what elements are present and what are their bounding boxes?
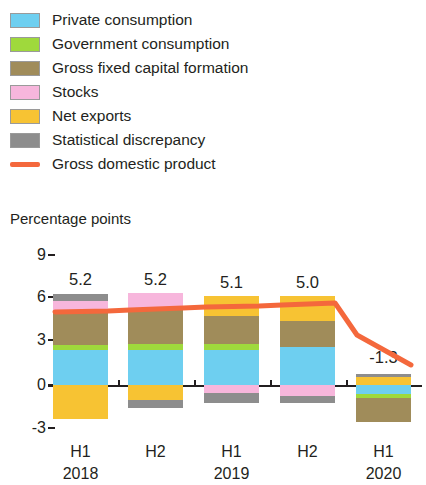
y-axis-title: Percentage points <box>10 210 131 227</box>
legend-item: Gross domestic product <box>10 152 420 176</box>
bar-segment-net-exports <box>53 385 108 419</box>
x-axis-label-year: 2019 <box>187 465 277 483</box>
legend-item: Government consumption <box>10 32 420 56</box>
x-tick-mark <box>118 380 120 385</box>
legend-swatch-icon <box>10 133 40 148</box>
legend-item-label: Government consumption <box>52 36 229 52</box>
chart-legend: Private consumptionGovernment consumptio… <box>10 8 420 176</box>
x-axis-label-year: 2020 <box>339 465 426 483</box>
bar-value-label: -1.3 <box>349 348 419 367</box>
legend-item: Stocks <box>10 80 420 104</box>
bar-segment-gross-fixed-capital-formation <box>128 310 183 344</box>
x-axis-label: H12020 <box>339 443 426 483</box>
legend-item-label: Statistical discrepancy <box>52 132 205 148</box>
stacked-bar <box>280 240 335 445</box>
legend-swatch-icon <box>10 61 40 76</box>
y-tick-label: 0 <box>0 376 46 394</box>
y-tick-label: 6 <box>0 288 46 306</box>
legend-item-label: Gross fixed capital formation <box>52 60 248 76</box>
bar-segment-net-exports <box>128 385 183 400</box>
bar-segment-stocks <box>128 293 183 310</box>
y-tick-label: -3 <box>0 419 46 437</box>
legend-item: Gross fixed capital formation <box>10 56 420 80</box>
bar-segment-net-exports <box>204 296 259 316</box>
bar-value-label: 5.2 <box>121 270 191 289</box>
bar-segment-net-exports <box>356 377 411 385</box>
x-tick-mark <box>346 380 348 385</box>
y-tick-label: 3 <box>0 331 46 349</box>
legend-swatch-icon <box>10 109 40 124</box>
legend-swatch-icon <box>10 37 40 52</box>
bar-segment-stocks <box>280 385 335 396</box>
legend-item-label: Stocks <box>52 84 99 100</box>
stacked-bar <box>204 240 259 445</box>
bar-value-label: 5.2 <box>46 270 116 289</box>
bar-segment-stocks <box>53 301 108 312</box>
bar-segment-stocks <box>204 385 259 393</box>
bar-segment-statistical-discrepancy <box>53 294 108 301</box>
bar-segment-net-exports <box>280 296 335 321</box>
x-tick-mark <box>194 380 196 385</box>
legend-line-icon <box>10 162 40 167</box>
legend-item: Net exports <box>10 104 420 128</box>
bar-segment-statistical-discrepancy <box>280 396 335 403</box>
x-axis-label-period: H1 <box>339 443 426 461</box>
legend-item-label: Private consumption <box>52 12 192 28</box>
x-tick-mark <box>270 380 272 385</box>
bar-segment-gross-fixed-capital-formation <box>204 316 259 344</box>
legend-item: Statistical discrepancy <box>10 128 420 152</box>
bar-segment-gross-fixed-capital-formation <box>356 398 411 422</box>
legend-swatch-icon <box>10 85 40 100</box>
plot-area: 9630-3 5.25.25.15.0-1.3 <box>0 240 426 445</box>
x-axis-labels: H12018H2H12019H2H12020 <box>0 443 426 485</box>
legend-item-label: Net exports <box>52 108 131 124</box>
bar-value-label: 5.1 <box>197 273 267 292</box>
x-axis-label-year: 2018 <box>36 465 126 483</box>
legend-swatch-icon <box>10 13 40 28</box>
bar-segment-private-consumption <box>356 385 411 394</box>
bar-segment-private-consumption <box>204 350 259 385</box>
bar-segment-statistical-discrepancy <box>128 400 183 408</box>
legend-item-label: Gross domestic product <box>52 156 216 172</box>
bar-segment-private-consumption <box>53 350 108 385</box>
stacked-bar <box>356 240 411 445</box>
y-tick-label: 9 <box>0 246 46 264</box>
bar-segment-private-consumption <box>128 350 183 385</box>
bar-segment-gross-fixed-capital-formation <box>53 312 108 345</box>
bar-segment-private-consumption <box>280 347 335 385</box>
bar-segment-gross-fixed-capital-formation <box>280 321 335 347</box>
bar-value-label: 5.0 <box>273 273 343 292</box>
legend-item: Private consumption <box>10 8 420 32</box>
bar-segment-statistical-discrepancy <box>204 393 259 403</box>
